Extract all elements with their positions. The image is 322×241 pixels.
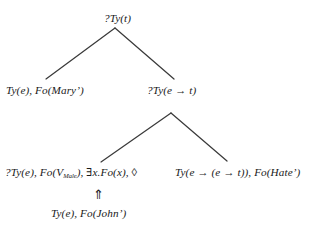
tree-node-predicate-hate: Ty(e → (e → t)), Fo(Hate’)	[175, 167, 300, 178]
vmale-label-prefix: ?Ty(e), Fo(V	[5, 166, 63, 178]
edge-root-to-mary	[46, 28, 115, 79]
edge-et-to-hate	[171, 113, 227, 161]
tree-node-root: ?Ty(t)	[104, 13, 131, 24]
edge-et-to-vmale	[101, 113, 171, 162]
tree-node-metavariable-vmale: ?Ty(e), Fo(VMale), ∃x.Fo(x), ◊	[5, 167, 137, 179]
tree-node-type-e-to-t: ?Ty(e → t)	[147, 85, 196, 96]
tree-node-john: Ty(e), Fo(John’)	[51, 208, 126, 219]
tree-node-mary: Ty(e), Fo(Mary’)	[6, 85, 84, 96]
double-up-arrow-icon: ⇑	[93, 188, 104, 201]
edge-root-to-et	[115, 28, 174, 79]
tree-diagram-canvas: ?Ty(t) Ty(e), Fo(Mary’) ?Ty(e → t) ?Ty(e…	[0, 0, 322, 241]
vmale-subscript: Male	[63, 172, 77, 179]
tree-edges	[0, 0, 322, 241]
vmale-label-suffix: ), ∃x.Fo(x), ◊	[77, 166, 138, 178]
